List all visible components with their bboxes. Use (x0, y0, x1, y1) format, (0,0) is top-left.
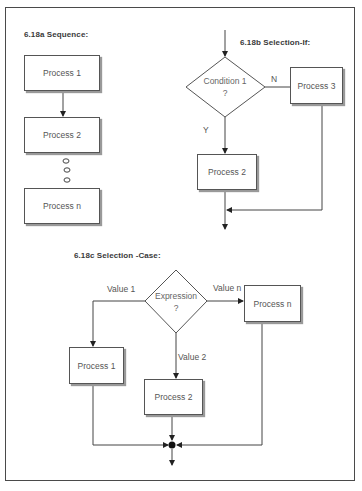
ellipsis-dot-icon (64, 178, 70, 182)
if-process-3-box: Process 3 (290, 67, 343, 104)
sequence-title: 6.18a Sequence: (24, 30, 88, 39)
case-expression-line2: ? (174, 302, 179, 314)
case-value1-label: Value 1 (107, 284, 135, 294)
seq-process-1-box: Process 1 (24, 55, 100, 91)
case-process-1-box: Process 1 (69, 347, 124, 384)
selection-if-title: 6.18b Selection-If: (240, 38, 310, 47)
case-valuen-label: Value n (213, 283, 241, 293)
ellipsis-dot-icon (64, 168, 70, 172)
case-expression-line1: Expression (155, 290, 197, 302)
selection-case-title: 6.18c Selection -Case: (74, 251, 161, 260)
if-condition-line2: ? (223, 87, 228, 99)
if-process-2-box: Process 2 (197, 154, 257, 190)
case-process-2-box: Process 2 (144, 379, 203, 415)
ellipsis-dot-icon (63, 159, 69, 163)
case-junction-dot (169, 442, 176, 449)
if-no-label: N (271, 74, 277, 84)
if-yes-label: Y (203, 125, 209, 135)
case-value2-label: Value 2 (178, 352, 206, 362)
seq-process-n-box: Process n (24, 188, 100, 224)
seq-process-2-box: Process 2 (24, 117, 100, 153)
case-value1-branch (93, 301, 145, 346)
if-condition-line1: Condition 1 (203, 75, 246, 87)
case-process-n-box: Process n (244, 285, 301, 322)
